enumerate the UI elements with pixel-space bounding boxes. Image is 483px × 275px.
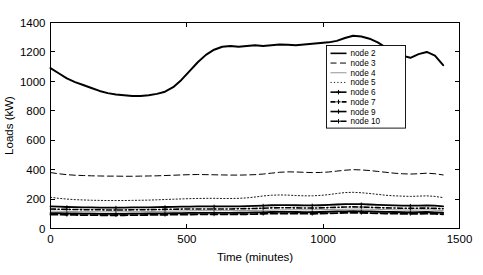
chart-screenshot: 0500100015000200400600800100012001400Tim… — [0, 0, 483, 275]
y-tick-label: 200 — [26, 193, 45, 205]
legend-label-node-4: node 4 — [351, 69, 376, 78]
y-tick-label: 0 — [39, 223, 45, 235]
y-tick-label: 400 — [26, 164, 45, 176]
legend-label-node-9: node 9 — [351, 108, 376, 117]
y-tick-label: 800 — [26, 105, 45, 117]
x-axis-title: Time (minutes) — [217, 251, 293, 263]
legend-label-node-6: node 6 — [351, 88, 376, 97]
legend-label-node-5: node 5 — [351, 78, 376, 87]
legend-label-node-3: node 3 — [351, 59, 376, 68]
x-tick-label: 500 — [177, 233, 196, 245]
y-tick-label: 1000 — [20, 76, 46, 88]
legend-label-node-7: node 7 — [351, 98, 376, 107]
legend-label-node-10: node 10 — [351, 117, 381, 126]
chart-legend[interactable]: node 2node 3node 4node 5node 6node 7node… — [327, 46, 406, 129]
legend-label-node-2: node 2 — [351, 49, 376, 58]
y-tick-label: 1400 — [20, 17, 46, 29]
x-tick-label: 1000 — [310, 233, 336, 245]
x-tick-label: 0 — [47, 233, 53, 245]
x-tick-label: 1500 — [447, 233, 473, 245]
y-tick-label: 1200 — [20, 46, 46, 58]
figure-canvas: 0500100015000200400600800100012001400Tim… — [0, 0, 483, 275]
y-tick-label: 600 — [26, 134, 45, 146]
y-axis-title: Loads (kW) — [3, 96, 15, 155]
